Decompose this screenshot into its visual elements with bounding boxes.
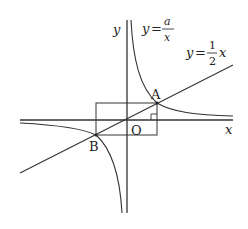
- svg-text:2: 2: [209, 55, 216, 68]
- svg-text:x: x: [219, 45, 227, 60]
- point-b-label: B: [89, 139, 99, 154]
- hyperbola-branch-lower-left: [20, 123, 122, 213]
- coordinate-diagram: x y O A B y = a x y = 1 2 x: [0, 0, 248, 229]
- svg-text:a: a: [164, 15, 171, 28]
- svg-text:=: =: [151, 21, 162, 36]
- svg-text:=: =: [195, 45, 206, 60]
- svg-text:y: y: [141, 21, 150, 36]
- x-axis-label: x: [225, 122, 233, 137]
- svg-text:1: 1: [209, 39, 216, 52]
- hyperbola-equation: y = a x: [141, 15, 174, 44]
- svg-text:x: x: [164, 31, 171, 44]
- point-a-label: A: [150, 87, 161, 102]
- point-b: [95, 134, 98, 137]
- line-equation: y = 1 2 x: [185, 39, 227, 68]
- origin-label: O: [131, 123, 142, 138]
- svg-text:y: y: [185, 45, 194, 60]
- right-angle-marker: [151, 114, 157, 120]
- y-axis-label: y: [112, 22, 121, 37]
